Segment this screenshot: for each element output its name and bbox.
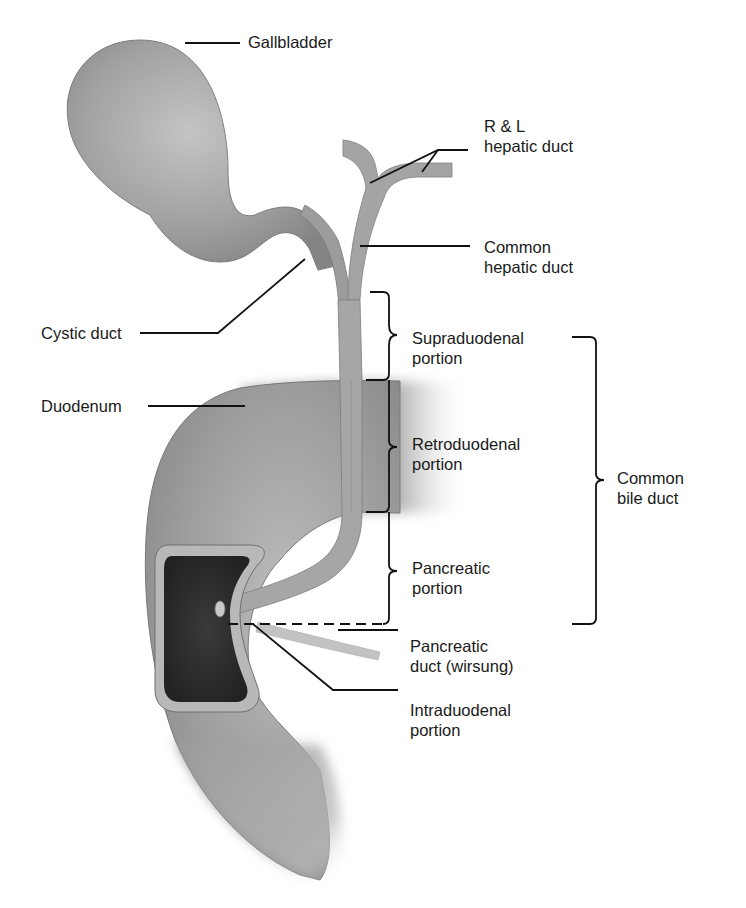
label-text: duct (wirsung) bbox=[410, 656, 514, 676]
label-text: Common bbox=[617, 468, 684, 488]
label-intraduodenal-portion: Intraduodenal portion bbox=[410, 700, 511, 740]
label-cystic-duct: Cystic duct bbox=[41, 323, 122, 343]
label-supraduodenal-portion: Supraduodenal portion bbox=[412, 328, 524, 368]
label-retroduodenal-portion: Retroduodenal portion bbox=[412, 434, 520, 474]
label-text: Gallbladder bbox=[248, 32, 332, 52]
label-text: Intraduodenal bbox=[410, 700, 511, 720]
label-duodenum: Duodenum bbox=[41, 396, 122, 416]
label-text: hepatic duct bbox=[484, 257, 573, 277]
label-text: portion bbox=[412, 454, 520, 474]
label-text: portion bbox=[410, 720, 511, 740]
label-rl-hepatic-duct: R & L hepatic duct bbox=[484, 116, 573, 156]
label-common-bile-duct: Common bile duct bbox=[617, 468, 684, 508]
label-pancreatic-duct: Pancreatic duct (wirsung) bbox=[410, 636, 514, 676]
label-text: hepatic duct bbox=[484, 136, 573, 156]
label-common-hepatic-duct: Common hepatic duct bbox=[484, 237, 573, 277]
label-pancreatic-portion: Pancreatic portion bbox=[412, 558, 490, 598]
label-text: Duodenum bbox=[41, 396, 122, 416]
label-text: portion bbox=[412, 578, 490, 598]
label-text: Retroduodenal bbox=[412, 434, 520, 454]
label-text: Pancreatic bbox=[412, 558, 490, 578]
label-text: Cystic duct bbox=[41, 323, 122, 343]
label-text: Pancreatic bbox=[410, 636, 514, 656]
label-text: Common bbox=[484, 237, 573, 257]
label-text: bile duct bbox=[617, 488, 684, 508]
biliary-anatomy-diagram: Gallbladder R & L hepatic duct Common he… bbox=[0, 0, 746, 908]
label-text: Supraduodenal bbox=[412, 328, 524, 348]
label-text: R & L bbox=[484, 116, 573, 136]
label-gallbladder: Gallbladder bbox=[248, 32, 332, 52]
label-text: portion bbox=[412, 348, 524, 368]
